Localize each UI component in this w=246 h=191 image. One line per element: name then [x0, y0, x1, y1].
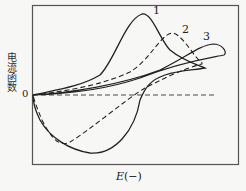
curve-label-2: 2 [182, 23, 189, 36]
cyclic-voltammogram-plot [0, 0, 246, 191]
y-tick-zero: 0 [22, 88, 28, 99]
curve-label-1: 1 [153, 4, 160, 17]
x-axis-unit: (−) [124, 170, 142, 183]
y-axis-label: 电流函数 [4, 52, 16, 92]
x-axis-variable: E [116, 170, 124, 183]
x-axis-label: E(−) [116, 170, 142, 183]
curve-label-3: 3 [203, 30, 210, 43]
curve-2 [33, 33, 202, 144]
